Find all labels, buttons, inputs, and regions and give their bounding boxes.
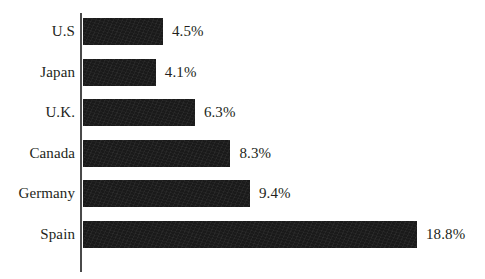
bar [83, 140, 230, 167]
plot-area: U.S 4.5% Japan 4.1% U.K. 6.3% Canada 8.3… [0, 0, 485, 279]
value-label: 18.8% [426, 221, 465, 248]
bar-fill [83, 221, 417, 248]
bar-row: Germany 9.4% [0, 180, 485, 207]
bar-fill [83, 59, 156, 86]
category-label: U.S [52, 18, 75, 45]
bar [83, 18, 163, 45]
bar-row: Canada 8.3% [0, 140, 485, 167]
value-label: 4.1% [165, 59, 197, 86]
bar [83, 221, 417, 248]
bar [83, 59, 156, 86]
value-label: 8.3% [239, 140, 271, 167]
bar-fill [83, 99, 195, 126]
value-label: 4.5% [172, 18, 204, 45]
value-label: 6.3% [204, 99, 236, 126]
value-label: 9.4% [259, 180, 291, 207]
bar-row: U.S 4.5% [0, 18, 485, 45]
category-label: Canada [29, 140, 75, 167]
category-label: Spain [40, 221, 75, 248]
category-label: Japan [40, 59, 75, 86]
bar [83, 180, 250, 207]
category-label: U.K. [45, 99, 75, 126]
bar-fill [83, 18, 163, 45]
bar-row: Japan 4.1% [0, 59, 485, 86]
bar-row: Spain 18.8% [0, 221, 485, 248]
bar-chart: U.S 4.5% Japan 4.1% U.K. 6.3% Canada 8.3… [0, 0, 485, 279]
bar-fill [83, 180, 250, 207]
bar-row: U.K. 6.3% [0, 99, 485, 126]
bar [83, 99, 195, 126]
category-label: Germany [18, 180, 75, 207]
bar-fill [83, 140, 230, 167]
